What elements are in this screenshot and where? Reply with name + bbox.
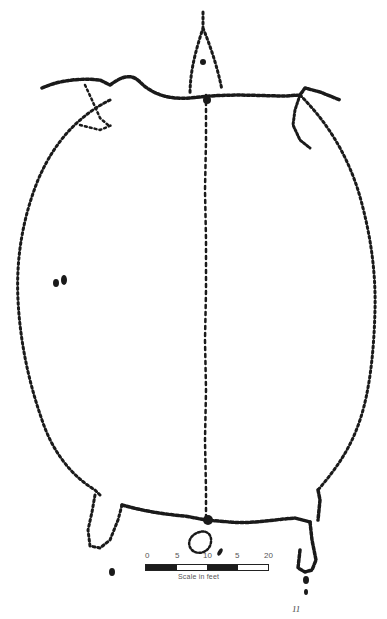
scale-tick-15: 5 <box>235 551 239 560</box>
scale-segment <box>146 565 177 570</box>
scale-tick-10: 10 <box>203 551 212 560</box>
scale-segment <box>238 565 269 570</box>
scale-tick-0: 0 <box>145 551 149 560</box>
scale-bar <box>145 564 269 571</box>
stone-outline <box>18 12 375 572</box>
scale-segment <box>177 565 208 570</box>
scale-tick-labels: 0 5 10 5 20 <box>140 551 275 563</box>
scale-tick-5: 5 <box>175 551 179 560</box>
site-plan-drawing <box>0 0 387 619</box>
scale-segment <box>207 565 238 570</box>
scale-caption: Scale in feet <box>178 573 219 580</box>
scale-tick-20: 20 <box>264 551 273 560</box>
figure-number: 11 <box>292 604 300 614</box>
